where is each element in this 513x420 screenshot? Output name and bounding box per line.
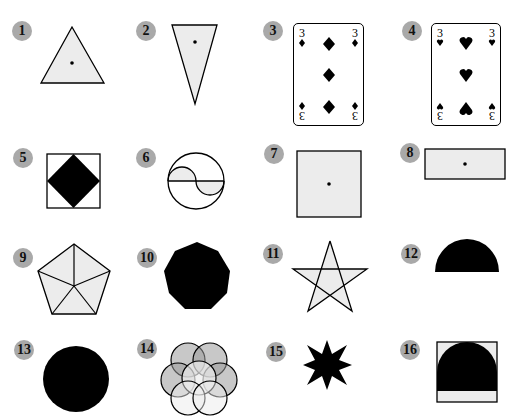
divided-pentagon-figure [37, 242, 113, 316]
figure-number-badge-5: 5 [13, 148, 33, 168]
figure-number-badge-7: 7 [264, 144, 284, 164]
square-figure [296, 150, 362, 218]
figure-number-badge-1: 1 [12, 21, 32, 41]
equilateral-triangle-figure [38, 25, 108, 87]
figure-number-badge-10: 10 [137, 248, 157, 268]
center-dot-icon [327, 182, 331, 186]
playing-card-three-of-hearts: 3 3 3 3 [431, 23, 501, 126]
figure-number-badge-6: 6 [136, 148, 156, 168]
eight-pointed-black-star-figure [303, 340, 353, 390]
square-with-diamond-figure [46, 153, 102, 209]
black-octagon-figure [163, 241, 231, 311]
figure-number-badge-4: 4 [402, 21, 422, 41]
five-pointed-star-figure [292, 240, 368, 312]
figure-number-badge-8: 8 [400, 143, 420, 163]
center-dot-icon [463, 162, 467, 166]
playing-card-three-of-diamonds: 3 3 3 3 [293, 23, 364, 126]
figure-number-badge-2: 2 [136, 21, 156, 41]
figure-number-badge-11: 11 [263, 244, 283, 264]
black-circle-figure [42, 345, 110, 413]
figure-number-badge-13: 13 [14, 340, 34, 360]
black-semicircle-figure [434, 237, 500, 273]
diamond-suit-icon [299, 37, 358, 114]
figure-number-badge-16: 16 [400, 340, 420, 360]
overlapping-circles-rosette-figure [158, 340, 240, 420]
figure-number-badge-9: 9 [13, 248, 33, 268]
inverted-triangle-figure [170, 23, 220, 107]
center-dot-icon [70, 61, 74, 65]
figure-number-badge-15: 15 [266, 342, 286, 362]
square-with-black-arch-figure [436, 341, 498, 391]
figure-number-badge-12: 12 [401, 244, 421, 264]
heart-suit-icon [437, 37, 495, 115]
center-dot-icon [193, 40, 197, 44]
figure-number-badge-3: 3 [263, 21, 283, 41]
figure-number-badge-14: 14 [137, 339, 157, 359]
rectangle-figure [424, 148, 506, 180]
circle-with-s-curve-figure [166, 151, 226, 211]
